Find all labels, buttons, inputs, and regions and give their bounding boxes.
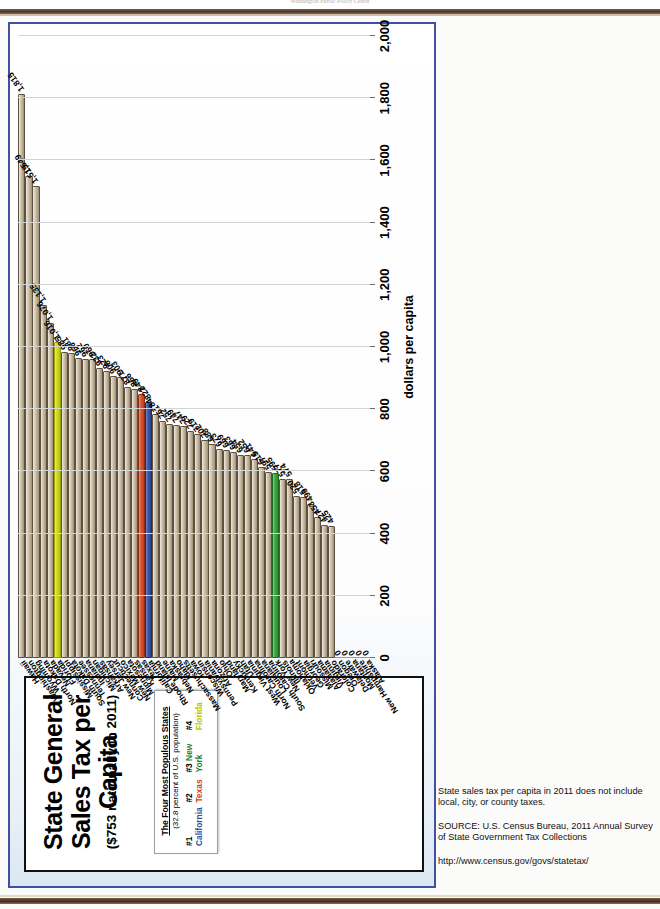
page-top-rule-light [0, 14, 660, 16]
bar-row: 923New Jersey [103, 36, 110, 658]
note-url[interactable]: http://www.census.gov/govs/statetax/ [438, 856, 654, 867]
bar-south-dakota [68, 353, 75, 658]
legend: The Four Most Populous States (32.8 perc… [154, 690, 218, 854]
bar-nebraska [166, 424, 173, 658]
axis-tick-label: 0 [377, 654, 392, 661]
bar-row: 719Wisconsin [194, 36, 201, 658]
axis-tick-label: 600 [377, 461, 392, 483]
axis-title: dollars per capita [402, 36, 416, 658]
grid-line [18, 408, 370, 409]
bar-rows: 1,815Hawaii1,549Washington1,519Wyoming1,… [18, 36, 370, 658]
axis-tick-label: 1,400 [377, 206, 392, 239]
bar-row: 597South Carolina [265, 36, 272, 658]
bar-row: 960Michigan [89, 36, 96, 658]
axis-tick [370, 222, 375, 223]
axis-tick-label: 1,800 [377, 82, 392, 115]
bar-connecticut [110, 376, 117, 658]
bar-row: 669Maryland [223, 36, 230, 658]
bar-row: 688Arizona [208, 36, 215, 658]
axis-tick-label: 1,000 [377, 331, 392, 364]
legend-item-texas: #2 Texas [184, 773, 204, 803]
bar-row: 784Rhode Island [152, 36, 159, 658]
bar-row: 495Missouri [307, 36, 314, 658]
bar-row: 822California [145, 36, 152, 658]
bar-row: 654Utah [237, 36, 244, 658]
grid-line [18, 159, 370, 160]
axis-tick-label: 800 [377, 398, 392, 420]
grid-line [18, 222, 370, 223]
bar-row: 425Colorado [328, 36, 335, 658]
bar-maryland [223, 450, 230, 658]
bar-row: 574Oklahoma [286, 36, 293, 658]
bar-row: 1,076Nevada [47, 36, 54, 658]
bar-oklahoma [286, 480, 293, 659]
axis-tick [370, 595, 375, 596]
axis-tick [370, 97, 375, 98]
value-axis: 02004006008001,0001,2001,4001,6001,8002,… [370, 36, 428, 658]
bar-kansas [131, 389, 138, 658]
bar-utah [237, 455, 244, 658]
axis-tick [370, 159, 375, 160]
bar-california [145, 402, 152, 658]
legend-item-newyork: #3 New York [184, 730, 204, 772]
axis-tick-label: 2,000 [377, 20, 392, 53]
axis-tick-label: 200 [377, 585, 392, 607]
bar-chart-plot: 1,815Hawaii1,549Washington1,519Wyoming1,… [18, 36, 370, 658]
grid-line [18, 284, 370, 285]
bar-row: 749Idaho [173, 36, 180, 658]
bar-row: 761Maine [159, 36, 166, 658]
bar-row: 702Pennsylvania [201, 36, 208, 658]
grid-line [18, 595, 370, 596]
note-source: SOURCE: U.S. Census Bureau, 2011 Annual … [438, 821, 654, 842]
bar-pennsylvania [201, 440, 208, 658]
bar-alabama [314, 517, 321, 658]
bar-arizona [208, 444, 215, 658]
bar-row: 520Vermont [293, 36, 300, 658]
axis-tick-label: 1,600 [377, 144, 392, 177]
bar-row: 453Alabama [314, 36, 321, 658]
bar-ohio [216, 449, 223, 658]
bar-row: 0Montana [349, 36, 356, 658]
bar-missouri [307, 504, 314, 658]
bar-nevada [47, 323, 54, 658]
bar-row: 1,549Washington [25, 36, 32, 658]
bar-row: 903New Mexico [117, 36, 124, 658]
bar-north-carolina [251, 459, 258, 658]
bar-row: 849Texas [138, 36, 145, 658]
bar-arkansas [96, 368, 103, 658]
bar-idaho [173, 425, 180, 658]
page-bottom-rule [0, 898, 660, 904]
bar-row: 1,135North Dakota [40, 36, 47, 658]
bar-row: 673Ohio [216, 36, 223, 658]
bar-wisconsin [194, 434, 201, 658]
bar-value-label: 1,815 [6, 70, 27, 93]
scan-header-text: Washington Public Policy Center [290, 0, 370, 4]
legend-entries: #1 California #2 Texas #3 New York #4 Fl… [184, 695, 204, 847]
bar-row: 752Nebraska [166, 36, 173, 658]
bar-row: 0Oregon [335, 36, 342, 658]
bar-row: 641North Carolina [251, 36, 258, 658]
bar-texas [138, 394, 145, 658]
bar-row: 1,519Wyoming [32, 36, 39, 658]
bar-row: 652West Virginia [244, 36, 251, 658]
bar-michigan [89, 359, 96, 658]
bar-rhode-island [152, 414, 159, 658]
bar-tennessee [75, 358, 82, 658]
bar-massachusetts [180, 426, 187, 658]
axis-tick-label: 400 [377, 523, 392, 545]
bar-illinois [279, 479, 286, 658]
bar-west-virginia [244, 455, 251, 658]
grid-line [18, 470, 370, 471]
bar-south-carolina [265, 472, 272, 658]
bar-row: 0New Hampshire [356, 36, 363, 658]
legend-subheading: (32.8 percent of U.S. population) [171, 695, 180, 847]
bar-iowa [187, 431, 194, 658]
bar-row: 747Massachusetts [180, 36, 187, 658]
grid-line [18, 533, 370, 534]
bar-georgia [300, 497, 307, 658]
bar-new-mexico [117, 377, 124, 658]
bar-row: 866Kansas [131, 36, 138, 658]
scanned-page: Washington Public Policy Center State Ge… [0, 0, 660, 909]
bar-row: 871Minnesota [124, 36, 131, 658]
title-box: State General Sales Tax per Capita ($753… [24, 676, 424, 872]
